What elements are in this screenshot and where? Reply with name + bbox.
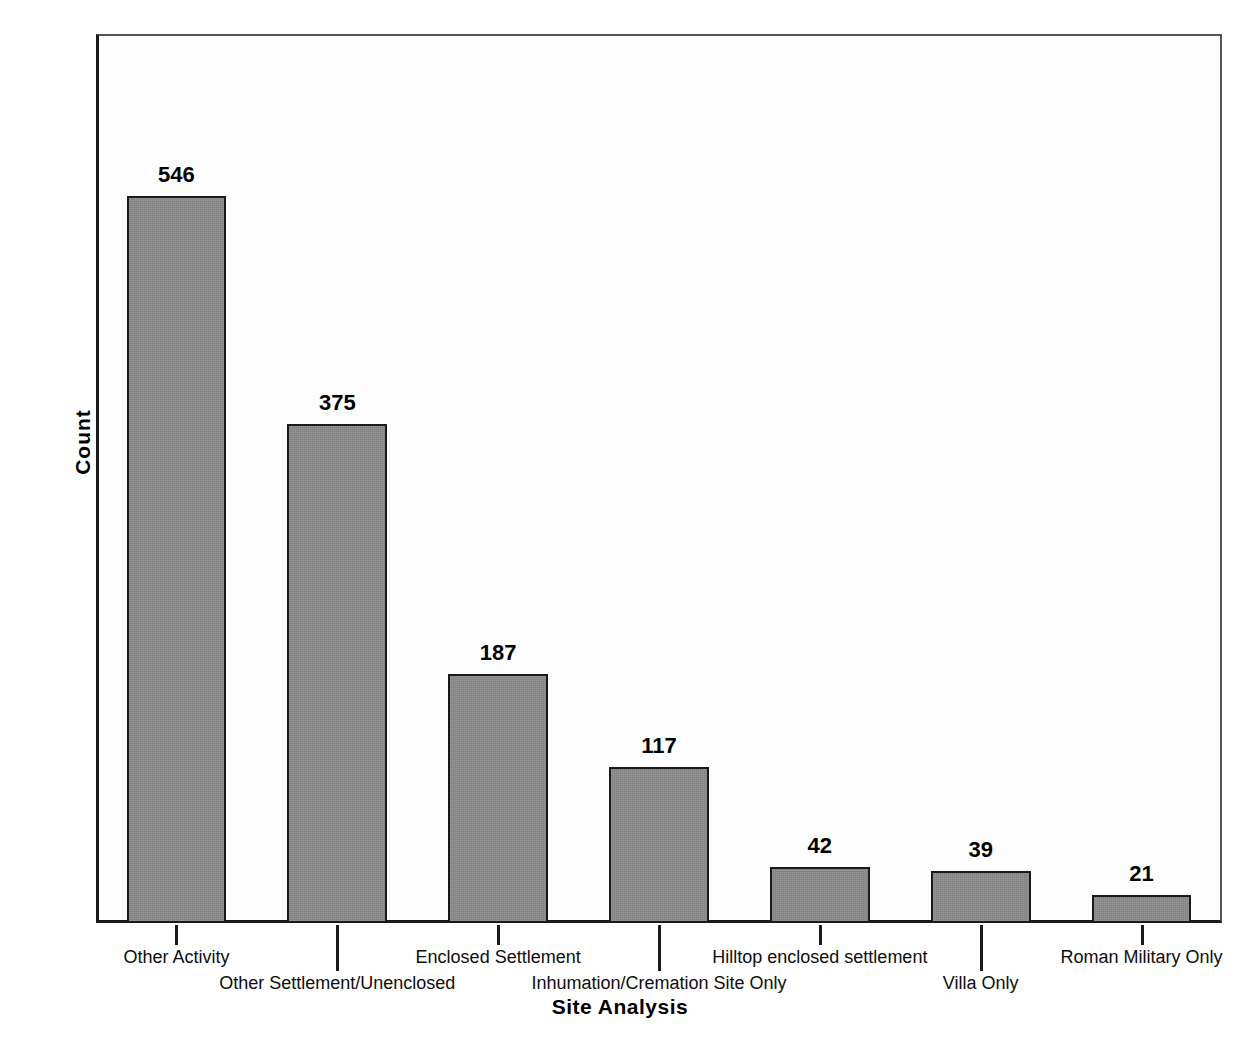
x-axis-title: Site Analysis (0, 995, 1240, 1019)
x-tick-label: Inhumation/Cremation Site Only (531, 973, 786, 994)
x-tick-mark (819, 925, 822, 945)
bar-value-label: 117 (641, 733, 677, 759)
bar (448, 674, 548, 923)
x-tick-label: Roman Military Only (1061, 947, 1223, 968)
bar (931, 871, 1031, 923)
x-tick-mark (980, 925, 983, 971)
bar-value-label: 42 (808, 833, 832, 859)
bar-value-label: 375 (319, 390, 356, 416)
bar (609, 767, 709, 923)
x-tick-mark (658, 925, 661, 971)
bar-value-label: 21 (1129, 861, 1153, 887)
bar-value-label: 39 (968, 837, 992, 863)
x-tick-mark (1141, 925, 1144, 945)
x-tick-mark (497, 925, 500, 945)
bar-value-label: 546 (158, 162, 195, 188)
bar (287, 424, 387, 923)
bar (770, 867, 870, 923)
x-tick-mark (336, 925, 339, 971)
x-tick-label: Other Settlement/Unenclosed (219, 973, 455, 994)
x-tick-label: Enclosed Settlement (416, 947, 581, 968)
bar (1092, 895, 1192, 923)
y-axis-title: Count (71, 377, 95, 507)
x-tick-label: Villa Only (943, 973, 1019, 994)
x-tick-label: Other Activity (123, 947, 229, 968)
bar-value-label: 187 (480, 640, 517, 666)
x-tick-mark (175, 925, 178, 945)
x-tick-label: Hilltop enclosed settlement (712, 947, 927, 968)
bar-chart-figure: Count 0100200300400500600 Other Activity… (0, 0, 1240, 1057)
bar (127, 196, 227, 923)
